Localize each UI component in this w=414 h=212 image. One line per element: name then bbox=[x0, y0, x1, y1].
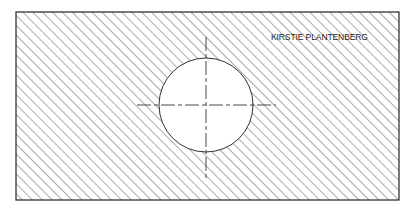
author-label: KIRSTIE PLANTENBERG bbox=[271, 32, 368, 42]
section-drawing: KIRSTIE PLANTENBERG bbox=[0, 0, 414, 212]
